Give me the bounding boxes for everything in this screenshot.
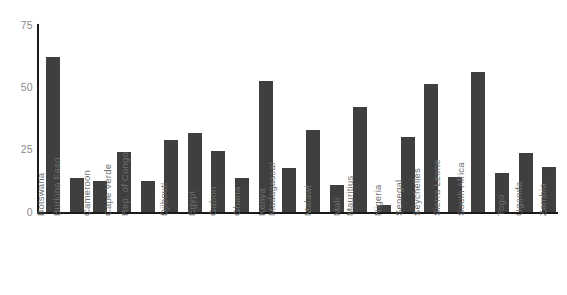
bar[interactable] [141, 181, 155, 212]
x-axis-category-label-text: Djibouti [158, 183, 169, 216]
x-axis-label-slot: Togo [490, 216, 514, 294]
x-axis-category-label: Ghana [231, 186, 242, 216]
x-axis-category-label: Madagascar [266, 162, 277, 216]
x-axis-label-slot: Sierra Leone [443, 216, 467, 294]
x-axis-category-label-text: Togo [495, 195, 506, 216]
x-axis-category-label: Nigeria [372, 185, 383, 217]
x-axis-category-label: Togo [495, 195, 506, 216]
y-axis-tick-label: 0 [3, 207, 33, 218]
x-axis-category-label: Senegal [393, 180, 404, 216]
x-axis-label-slot: Gabon [206, 216, 230, 294]
bar-slot [490, 25, 514, 212]
x-axis-label-slot: Mali [325, 216, 349, 294]
x-axis-label-slot: Ghana [230, 216, 254, 294]
bar-slot [466, 25, 490, 212]
x-axis-category-label-text: Sierra Leone [430, 159, 441, 216]
bar-slot [136, 25, 160, 212]
bar-slot [230, 25, 254, 212]
x-axis-category-label: Cameroon [81, 170, 92, 216]
x-axis-category-label-text: Mali [331, 198, 342, 216]
x-axis-category-label-text: Malawi [301, 185, 312, 216]
x-axis-category-label: Djibouti [158, 183, 169, 216]
x-axis-category-label: Malawi [301, 185, 312, 216]
x-axis-category-label-text: South Africa [455, 162, 466, 216]
x-axis-category-label-text: Egypt [186, 191, 197, 216]
x-axis-category-label-text: Rep. of Congo [119, 152, 130, 216]
x-axis-label-slot: Mauritius [348, 216, 372, 294]
x-axis-category-label-text: Senegal [393, 180, 404, 216]
x-axis-category-label-text: Ghana [231, 186, 242, 216]
bar-chart: 0255075 BotswanaBurkina FasoCameroonCape… [0, 0, 567, 295]
x-axis-label-slot: Egypt [183, 216, 207, 294]
x-axis-label-slot: Rep. of Congo [136, 216, 160, 294]
x-axis-category-label: Sierra Leone [430, 159, 441, 216]
x-axis-category-label-text: Botswana [35, 173, 46, 216]
x-axis-category-label: Mali [331, 198, 342, 216]
x-axis-category-label: Egypt [186, 191, 197, 216]
x-axis-label-slot: Cape Verde [112, 216, 136, 294]
x-axis-label-slot: South Africa [466, 216, 490, 294]
x-axis-category-label-text: Uganda [512, 182, 523, 216]
y-axis-tick-label: 25 [3, 144, 33, 155]
x-axis-category-label: Rep. of Congo [119, 152, 130, 216]
x-axis-category-label-text: Nigeria [372, 185, 383, 217]
x-axis-category-label: Zambia [537, 183, 548, 216]
x-axis-label-slot: Nigeria [372, 216, 396, 294]
x-axis-category-label-text: Madagascar [266, 162, 277, 216]
x-axis-category-label-text: Burkina Faso [51, 158, 62, 216]
x-axis-category-label: Uganda [512, 182, 523, 216]
x-axis-category-label: Mauritius [344, 176, 355, 216]
bar-slot [183, 25, 207, 212]
x-axis-category-label-text: Zambia [537, 183, 548, 216]
plot-area [38, 25, 558, 212]
x-axis-label-slot: Cameroon [88, 216, 112, 294]
bar[interactable] [353, 107, 367, 212]
x-axis-label-slot: Seychelles [419, 216, 443, 294]
x-axis-label-slot: Malawi [301, 216, 325, 294]
x-axis-category-label-text: Seychelles [411, 168, 422, 216]
x-axis-category-label: Seychelles [411, 168, 422, 216]
x-axis-label-slot: Botswana [41, 216, 65, 294]
bar[interactable] [471, 72, 485, 212]
x-axis-category-label: Burkina Faso [51, 158, 62, 216]
y-axis-tick-label: 50 [3, 82, 33, 93]
x-axis-line [37, 212, 558, 214]
x-axis-label-slot: Burkina Faso [65, 216, 89, 294]
x-axis-category-label-text: Cameroon [81, 170, 92, 216]
x-axis-label-slot: Senegal [396, 216, 420, 294]
bar-slot [206, 25, 230, 212]
x-axis-category-label-text: Gabon [208, 186, 219, 216]
x-axis-category-label-text: Mauritius [344, 176, 355, 216]
x-axis-category-label: Cape Verde [102, 164, 113, 216]
x-axis-category-label: Gabon [208, 186, 219, 216]
y-axis-tick-label: 75 [3, 20, 33, 31]
x-axis-category-label: South Africa [455, 162, 466, 216]
x-axis-label-slot: Uganda [514, 216, 538, 294]
x-axis-label-slot: Zambia [537, 216, 561, 294]
bar-slot [301, 25, 325, 212]
bar-slot [277, 25, 301, 212]
x-axis-label-slot: Djibouti [159, 216, 183, 294]
x-axis-category-label: Botswana [35, 173, 46, 216]
x-axis-label-slot: Madagascar [277, 216, 301, 294]
bar[interactable] [282, 168, 296, 212]
x-axis-label-slot: Kenya [254, 216, 278, 294]
y-axis-tick-labels: 0255075 [0, 0, 33, 295]
x-axis-category-label-text: Cape Verde [102, 164, 113, 216]
